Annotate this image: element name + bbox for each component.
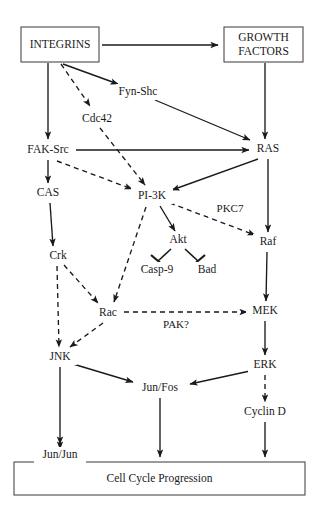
node-rac[interactable]: Rac (93, 305, 124, 321)
edge-crk-jnk (57, 266, 59, 347)
edge-raf-mek (266, 252, 267, 301)
edge-integrins-cdc42 (61, 64, 90, 106)
node-erk[interactable]: ERK (248, 357, 283, 373)
edge-pi3k-rac (114, 207, 146, 302)
mek-label: MEK (252, 304, 278, 316)
node-akt[interactable]: Akt (164, 232, 193, 248)
node-ras[interactable]: RAS (249, 141, 287, 157)
fak-src-label: FAK-Src (27, 143, 68, 155)
ras-label: RAS (257, 142, 279, 154)
pathway-canvas: INTEGRINS GROWTH FACTORS Cell Cycle Prog… (0, 0, 318, 516)
edge-fak-src-pi3k (57, 161, 132, 189)
cell-cycle-progression-label: Cell Cycle Progression (106, 472, 212, 485)
edge-crk-rac (64, 265, 98, 303)
node-jnk[interactable]: JNK (43, 349, 77, 365)
edge-jnk-jun-fos (73, 364, 133, 382)
edge-pi3k-akt (160, 206, 175, 231)
node-cas[interactable]: CAS (28, 185, 68, 201)
fyn-shc-label: Fyn-Shc (119, 85, 158, 98)
pak-label: PAK? (163, 318, 189, 330)
pathway-diagram: INTEGRINS GROWTH FACTORS Cell Cycle Prog… (0, 0, 318, 516)
edge-fyn-shc-ras (155, 100, 250, 140)
node-pak[interactable]: PAK? (154, 317, 198, 333)
bad-label: Bad (198, 263, 217, 275)
node-bad[interactable]: Bad (191, 262, 223, 278)
node-jun-jun[interactable]: Jun/Jun (34, 447, 86, 463)
node-crk[interactable]: Crk (44, 248, 73, 264)
node-integrins[interactable]: INTEGRINS (21, 27, 99, 62)
node-jun-fos[interactable]: Jun/Fos (135, 380, 185, 396)
edge-rac-jnk (70, 323, 103, 347)
node-growth-factors[interactable]: GROWTH FACTORS (224, 27, 303, 62)
jnk-label: JNK (49, 350, 71, 362)
node-cell-cycle-progression[interactable]: Cell Cycle Progression (14, 462, 305, 495)
edge-ras-pi3k (172, 159, 258, 190)
cyclin-d-label: Cyclin D (244, 405, 286, 418)
node-pkc7[interactable]: PKC7 (208, 201, 252, 217)
node-casp9[interactable]: Casp-9 (132, 262, 182, 278)
jun-fos-label: Jun/Fos (142, 381, 178, 393)
edge-cas-crk (50, 203, 53, 246)
edge-erk-jun-fos (190, 371, 250, 384)
node-pi3k[interactable]: PI-3K (131, 188, 173, 204)
pi3k-label: PI-3K (138, 189, 167, 201)
edge-cdc42-pi3k (100, 128, 145, 185)
jun-jun-label: Jun/Jun (42, 448, 77, 460)
integrins-label: INTEGRINS (30, 38, 91, 50)
node-label-layer: Fyn-Shc Cdc42 FAK-Src RAS CAS PI-3K PKC7 (20, 84, 295, 463)
cas-label: CAS (37, 186, 59, 198)
growth-factors-label-line2: FACTORS (238, 45, 289, 57)
casp9-label: Casp-9 (141, 263, 174, 276)
cdc42-label: Cdc42 (82, 112, 112, 124)
edge-integrins-fyn-shc (63, 64, 118, 84)
node-fyn-shc[interactable]: Fyn-Shc (116, 84, 160, 100)
akt-label: Akt (169, 233, 187, 245)
raf-label: Raf (260, 235, 277, 247)
rac-label: Rac (99, 306, 117, 318)
node-cdc42[interactable]: Cdc42 (77, 111, 117, 127)
node-raf[interactable]: Raf (253, 234, 284, 250)
pkc7-label: PKC7 (217, 202, 244, 214)
node-cyclin-d[interactable]: Cyclin D (235, 404, 295, 420)
node-fak-src[interactable]: FAK-Src (20, 142, 76, 158)
crk-label: Crk (49, 249, 67, 261)
erk-label: ERK (254, 358, 278, 370)
growth-factors-label-line1: GROWTH (238, 31, 288, 43)
node-mek[interactable]: MEK (246, 303, 285, 319)
